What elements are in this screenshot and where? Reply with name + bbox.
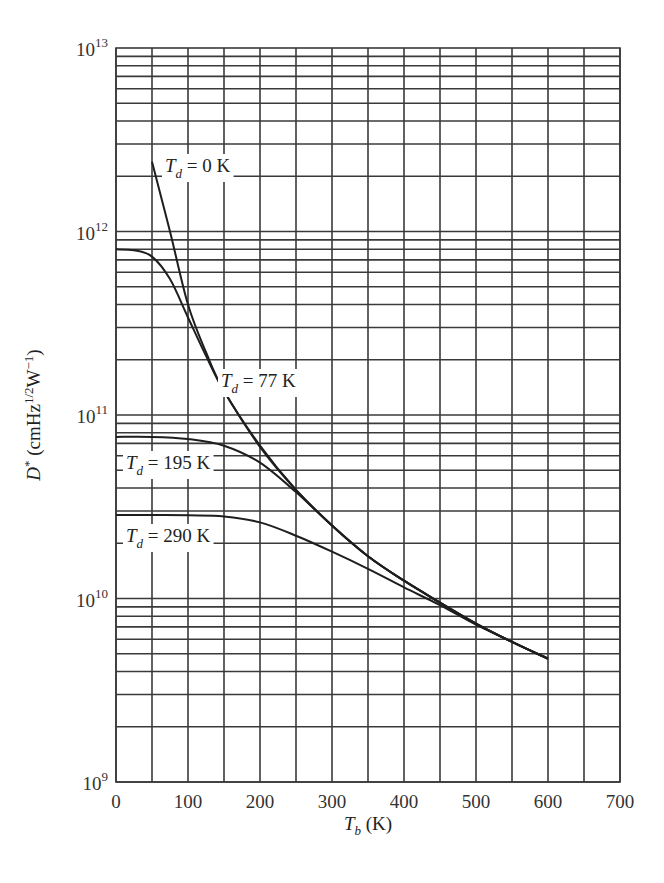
x-tick-label: 300 — [318, 791, 347, 812]
y-tick-label: 109 — [83, 769, 109, 794]
x-tick-label: 700 — [606, 791, 635, 812]
y-axis-label-unit-w: W — [23, 369, 44, 387]
x-axis-ticks: 0100200300400500600700 — [111, 791, 634, 812]
y-tick-label: 1012 — [76, 219, 108, 244]
y-axis-label: D* (cmHz1/2W−1) — [21, 349, 45, 481]
y-axis-label-close: ) — [23, 349, 45, 355]
x-tick-label: 400 — [390, 791, 419, 812]
curve-labels: Td = 0 KTd = 77 KTd = 195 KTd = 290 K — [123, 154, 299, 552]
x-axis-label: Tb (K) — [344, 813, 392, 838]
y-tick-label: 1010 — [76, 586, 108, 611]
x-tick-label: 600 — [534, 791, 563, 812]
y-axis-label-sup1: 1/2 — [21, 387, 36, 404]
x-tick-label: 100 — [174, 791, 203, 812]
x-tick-label: 500 — [462, 791, 491, 812]
y-axis-ticks: 1091010101110121013 — [76, 35, 108, 794]
y-tick-label: 1011 — [76, 402, 108, 427]
y-axis-label-sup2: −1 — [21, 356, 36, 370]
y-tick-label: 1013 — [76, 35, 108, 60]
y-axis-label-unit: (cmHz — [23, 404, 45, 460]
detectivity-chart: Td = 0 KTd = 77 KTd = 195 KTd = 290 K 01… — [0, 0, 664, 883]
x-axis-label-unit: (K) — [361, 813, 392, 835]
x-tick-label: 0 — [111, 791, 121, 812]
y-axis-label-main: D — [23, 467, 44, 482]
curve-0k — [152, 162, 548, 659]
x-tick-label: 200 — [246, 791, 275, 812]
